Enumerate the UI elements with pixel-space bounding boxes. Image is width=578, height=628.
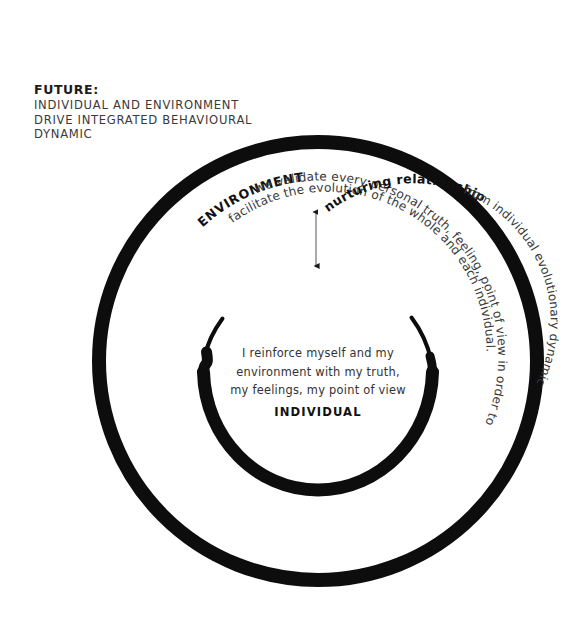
center-line-3: my feelings, my point of view (218, 381, 418, 400)
outer-arc-line-2: facilitate the evolution of the whole an… (226, 181, 498, 353)
center-line-1: I reinforce myself and my (218, 344, 418, 363)
spiral-diagram-svg: ENVIRONMENT we validate every personal t… (0, 0, 578, 628)
center-line-2: environment with my truth, (218, 363, 418, 382)
outer-arc-line-2-text: facilitate the evolution of the whole an… (226, 181, 498, 353)
center-label: INDIVIDUAL (218, 402, 418, 423)
center-text-block: I reinforce myself and my environment wi… (218, 344, 418, 423)
diagram-canvas: FUTURE: INDIVIDUAL AND ENVIRONMENT DRIVE… (0, 0, 578, 628)
